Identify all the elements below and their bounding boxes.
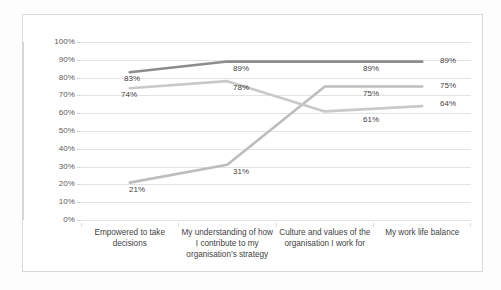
x-category-label-0: Empowered to take decisions: [81, 223, 179, 277]
data-label-s1-p3: 89%: [440, 56, 456, 65]
y-tick-label-40: 40%: [29, 144, 75, 153]
x-tick-mark-0: [81, 223, 82, 227]
data-label-s1-p0: 83%: [124, 74, 140, 83]
y-tick-label-70: 70%: [29, 90, 75, 99]
data-label-s1-p1: 89%: [233, 64, 249, 73]
data-label-s1-p2: 89%: [363, 64, 379, 73]
data-label-s3-p1: 31%: [233, 167, 249, 176]
y-tick-label-30: 30%: [29, 162, 75, 171]
data-label-s2-p1: 78%: [233, 83, 249, 92]
chart-frame: 100% 90% 80% 70% 60% 50% 40% 30% 20% 10%…: [22, 14, 483, 272]
data-label-s3-p0: 21%: [129, 185, 145, 194]
plot-area: 83% 89% 89% 89% 74% 78% 61% 64% 21% 31% …: [81, 42, 471, 220]
data-label-s3-p2: 75%: [363, 89, 379, 98]
chart-screenshot: 100% 90% 80% 70% 60% 50% 40% 30% 20% 10%…: [0, 0, 501, 290]
x-axis-labels: Empowered to take decisions My understan…: [81, 223, 471, 277]
y-tick-label-100: 100%: [29, 37, 75, 46]
data-label-s2-p3: 64%: [440, 99, 456, 108]
y-axis-labels: 100% 90% 80% 70% 60% 50% 40% 30% 20% 10%…: [29, 42, 75, 220]
x-category-label-2: Culture and values of the organisation I…: [276, 223, 374, 277]
y-tick-label-50: 50%: [29, 126, 75, 135]
x-tick-mark-1: [178, 223, 179, 227]
line-series-3: [130, 87, 423, 183]
y-tick-label-10: 10%: [29, 197, 75, 206]
y-tick-label-80: 80%: [29, 73, 75, 82]
x-tick-mark-4: [470, 223, 471, 227]
y-tick-label-60: 60%: [29, 108, 75, 117]
data-label-s3-p3: 75%: [440, 81, 456, 90]
x-category-label-1: My understanding of how I contribute to …: [179, 223, 277, 277]
x-tick-mark-3: [373, 223, 374, 227]
gridline-0: [81, 220, 471, 221]
x-tick-mark-2: [276, 223, 277, 227]
data-label-s2-p2: 61%: [363, 115, 379, 124]
data-label-s2-p0: 74%: [121, 90, 137, 99]
x-category-label-3: My work life balance: [374, 223, 472, 277]
y-tick-label-90: 90%: [29, 55, 75, 64]
y-tick-label-0: 0%: [29, 215, 75, 224]
y-tick-label-20: 20%: [29, 179, 75, 188]
y-axis-line: [23, 42, 24, 220]
